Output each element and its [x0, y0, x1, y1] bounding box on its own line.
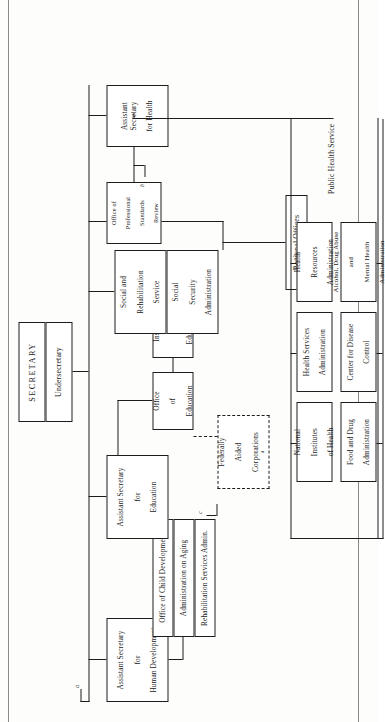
public-health-service-feeder [133, 118, 333, 119]
footnote-c-elbow-vertical [206, 515, 216, 516]
social-rehab-riser [88, 291, 114, 292]
national-institutes-of-health-box: National Institutes of Health [296, 402, 332, 482]
public-health-service-group-label: Public Health Service [326, 124, 335, 194]
footnote-a-elbow-horizontal [80, 689, 81, 702]
federally-aided-corporations-box: Federally Aided Corporationsd [217, 415, 269, 489]
hsa-riser [290, 353, 296, 354]
undersecretary-label: Undersecretary [54, 325, 63, 419]
office-to-institute-line [172, 358, 173, 372]
office-of-education-label: Office of Education [152, 375, 194, 427]
asec-education-box: Assistant Secretary for Education [106, 455, 168, 539]
human-development-bus [182, 637, 183, 660]
secretary-drop-line [72, 371, 88, 372]
office-professional-standards-review-box: Office of Professional Standards Review [106, 182, 161, 244]
undersecretary-box: Undersecretary [45, 322, 72, 422]
administration-on-aging-label: Administration on Aging [179, 522, 187, 634]
footnote-marker-c: c [196, 511, 202, 514]
rehabilitation-services-admin-label: Rehabilitation Services Admin. [200, 522, 208, 634]
footnote-marker-b: b [138, 184, 144, 187]
health-resources-administration-label: Health Resources Administration [293, 225, 335, 299]
center-for-disease-control-box: Center for Disease Control [340, 312, 376, 392]
hra-riser [290, 263, 296, 264]
main-trunk-line [88, 85, 89, 702]
social-security-administration-box: Social Security Administration [166, 250, 218, 334]
social-rehabilitation-service-box: Social and Rehabilitation Service [114, 250, 166, 334]
social-security-administration-label: Social Security Administration [171, 253, 213, 331]
federally-aided-corporations-label: Federally Aided Corporationsd [217, 418, 268, 486]
asec-human-development-riser [88, 659, 106, 660]
social-rehabilitation-service-label: Social and Rehabilitation Service [119, 253, 161, 331]
cdc-riser [376, 353, 382, 354]
phs-bottom-close [376, 538, 383, 539]
food-and-drug-administration-label: Food and Drug Administration [346, 405, 371, 479]
rehabilitation-services-admin-box: Rehabilitation Services Admin. [194, 519, 215, 637]
nih-riser [290, 443, 296, 444]
education-to-office-line [117, 400, 118, 455]
footnote-marker-d: d [259, 451, 264, 454]
asec-health-box: Assistant Secretary for Health [106, 85, 168, 147]
fda-riser [376, 443, 382, 444]
asec-education-label: Assistant Secretary for Education [116, 458, 158, 536]
footnote-c-elbow-horizontal [216, 504, 217, 516]
regional-offices-connector [222, 221, 223, 250]
human-development-drop [168, 659, 182, 660]
health-services-administration-label: Health Services Administration [302, 315, 327, 389]
asec-health-label: Assistant Secretary for Health [120, 88, 153, 144]
adamha-riser [376, 263, 382, 264]
national-institutes-of-health-label: National Institutes of Health [293, 405, 335, 479]
asec-health-riser [88, 115, 106, 116]
footnote-marker-a: a [73, 685, 79, 688]
alcohol-drug-abuse-mental-health-administration-box: Alcohol, Drug Abuse and Mental Health Ad… [340, 222, 376, 302]
secretary-box: SECRETARY [18, 322, 45, 422]
center-for-disease-control-label: Center for Disease Control [346, 315, 371, 389]
administration-on-aging-box: Administration on Aging [173, 519, 194, 637]
health-services-administration-box: Health Services Administration [296, 312, 332, 392]
food-and-drug-administration-box: Food and Drug Administration [340, 402, 376, 482]
regional-offices-drop [222, 242, 285, 243]
secretary-label: SECRETARY [27, 325, 36, 419]
phs-bottom-bus [382, 119, 383, 539]
advisory-tie-line [193, 436, 217, 437]
office-of-education-box: Office of Education [152, 372, 193, 430]
office-of-education-riser [117, 400, 152, 401]
health-resources-administration-box: Health Resources Administration [296, 222, 332, 302]
footnote-b-elbow-vertical [133, 165, 144, 166]
footnote-b-elbow-horizontal [144, 165, 145, 177]
asec-education-riser [88, 496, 106, 497]
office-professional-standards-review-label: Office of Professional Standards Review [109, 185, 158, 241]
